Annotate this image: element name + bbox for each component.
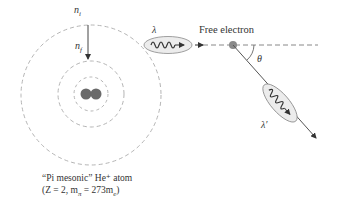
label-lambda-incident: λ (152, 24, 156, 35)
label-n-i: ni (74, 4, 81, 18)
label-lambda-scattered: λ′ (261, 119, 268, 130)
label-free-electron: Free electron (199, 24, 254, 35)
nucleus (81, 89, 102, 100)
label-n-f: nf (75, 40, 82, 54)
label-theta: θ (257, 53, 262, 64)
theta-arc (247, 45, 254, 60)
atom-caption: “Pi mesonic” He⁺ atom (Z = 2, mπ = 273me… (42, 172, 132, 200)
caption-line-2: (Z = 2, mπ = 273me) (42, 184, 132, 200)
caption-line-1: “Pi mesonic” He⁺ atom (42, 172, 132, 184)
incident-photon (144, 37, 192, 54)
